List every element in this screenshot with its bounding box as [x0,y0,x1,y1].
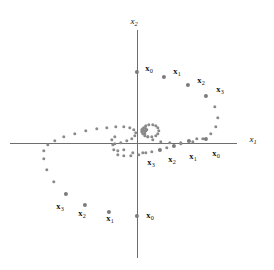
data-point [204,137,208,141]
data-point [122,125,125,128]
data-point [172,144,176,148]
data-point [95,127,98,130]
label-x0-top: x0 [145,64,153,74]
data-point [130,137,133,140]
data-point [114,125,117,128]
data-point [73,132,76,135]
label-x0-bottom: x0 [146,211,154,221]
label-x3-right: x3 [147,158,155,168]
label-x3-top: x3 [216,85,224,95]
data-point [52,180,55,183]
data-point [113,135,116,138]
data-point [135,214,139,218]
label-x2-top: x2 [197,76,205,86]
data-point [112,148,115,151]
data-point [214,125,217,128]
label-x1-bottom: x1 [106,214,114,224]
data-point [162,75,166,79]
data-point [135,70,139,74]
data-point [111,143,114,146]
data-point [122,154,125,157]
data-point [129,154,132,157]
data-point [119,141,122,144]
data-point [179,142,182,145]
data-point [216,116,219,119]
data-point [84,129,87,132]
data-point [116,153,119,156]
data-point [128,126,131,129]
data-point [209,132,212,135]
data-point [42,149,45,152]
label-x3-bottom: x3 [56,202,64,212]
y-axis-label: x2 [130,17,137,27]
data-point [116,149,119,152]
data-point [42,157,45,160]
label-x1-top: x1 [173,67,181,77]
data-point [105,126,108,129]
data-point [213,105,216,108]
data-point [83,203,87,207]
x-axis-line [10,143,237,144]
data-point [165,146,168,149]
data-point [122,148,125,151]
data-point [150,150,153,153]
label-x2-right: x2 [168,155,176,165]
data-point [46,143,49,146]
label-x1-right: x1 [189,152,197,162]
phase-portrait-figure: x1 x2 x0x1x2x3x0x1x2x3x3x2x1x0 [0,0,274,270]
data-point [137,153,140,156]
y-axis-line [137,30,138,258]
x-axis-label: x1 [249,135,256,145]
data-point [147,123,150,126]
label-x0-right: x0 [212,149,220,159]
label-x2-bottom: x2 [78,209,86,219]
data-point [154,134,157,137]
data-point [144,151,147,154]
data-point [110,138,113,141]
data-point [186,83,190,87]
data-point [45,168,48,171]
data-point [62,135,65,138]
data-point [195,137,198,140]
data-point [151,138,154,141]
data-point [204,94,208,98]
data-point [146,135,149,138]
data-point [158,148,162,152]
data-point [64,192,68,196]
